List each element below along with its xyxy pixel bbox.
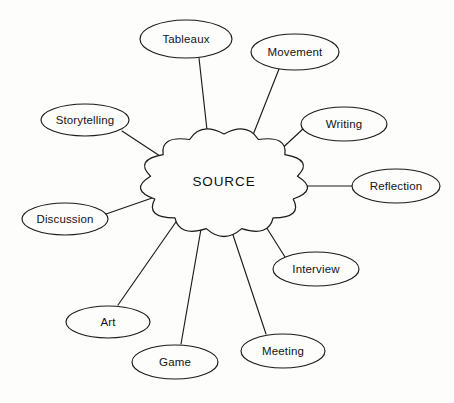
node-label-movement: Movement bbox=[268, 46, 324, 58]
node-storytelling[interactable]: Storytelling bbox=[41, 104, 129, 136]
diagram-canvas: SOURCE TableauxMovementWritingReflection… bbox=[0, 0, 454, 403]
spoke-line-movement bbox=[251, 69, 279, 140]
node-label-tableaux: Tableaux bbox=[162, 33, 209, 45]
node-tableaux[interactable]: Tableaux bbox=[140, 20, 232, 58]
node-label-reflection: Reflection bbox=[370, 180, 423, 192]
node-movement[interactable]: Movement bbox=[251, 34, 339, 70]
node-discussion[interactable]: Discussion bbox=[22, 203, 108, 235]
node-writing[interactable]: Writing bbox=[301, 107, 387, 141]
node-reflection[interactable]: Reflection bbox=[352, 169, 440, 203]
spoke-line-meeting bbox=[231, 229, 266, 334]
node-label-art: Art bbox=[100, 316, 116, 328]
node-label-meeting: Meeting bbox=[262, 345, 304, 357]
spoke-line-game bbox=[181, 229, 201, 344]
spoke-line-storytelling bbox=[122, 131, 163, 158]
node-label-storytelling: Storytelling bbox=[56, 114, 115, 126]
node-label-writing: Writing bbox=[326, 118, 363, 130]
node-label-game: Game bbox=[159, 356, 191, 368]
node-interview[interactable]: Interview bbox=[273, 252, 359, 286]
node-label-discussion: Discussion bbox=[36, 213, 93, 225]
spoke-line-discussion bbox=[106, 197, 155, 214]
center-label: SOURCE bbox=[192, 174, 255, 189]
node-game[interactable]: Game bbox=[132, 345, 218, 379]
spoke-line-tableaux bbox=[199, 58, 208, 139]
node-label-interview: Interview bbox=[292, 263, 340, 275]
node-meeting[interactable]: Meeting bbox=[241, 334, 325, 368]
spoke-line-art bbox=[118, 219, 178, 305]
mindmap-diagram: SOURCE TableauxMovementWritingReflection… bbox=[0, 0, 454, 403]
central-cloud-group[interactable]: SOURCE bbox=[140, 129, 307, 237]
node-art[interactable]: Art bbox=[66, 306, 150, 338]
